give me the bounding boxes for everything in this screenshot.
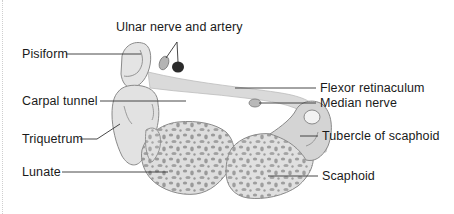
label-flexor-retinaculum: Flexor retinaculum [320,81,425,95]
lunate-bone [141,121,234,194]
label-carpal-tunnel: Carpal tunnel [22,94,98,108]
label-scaphoid: Scaphoid [322,169,375,183]
label-ulnar-nerve-and-artery: Ulnar nerve and artery [116,20,243,34]
label-pisiform: Pisiform [22,47,68,61]
ulnar-nerve-and-artery [157,55,184,73]
label-triquetrum: Triquetrum [22,132,83,146]
pisiform-bone [121,43,151,89]
label-lunate: Lunate [22,165,61,179]
label-tubercle-of-scaphoid: Tubercle of scaphoid [322,129,440,143]
label-median-nerve: Median nerve [320,96,397,110]
